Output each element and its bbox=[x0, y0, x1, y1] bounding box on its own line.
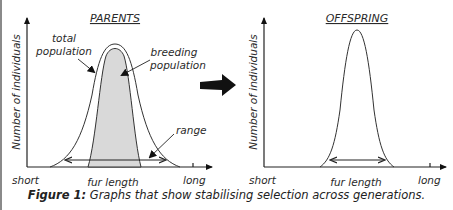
generation-arrow-icon bbox=[200, 74, 236, 96]
range-label: range bbox=[176, 124, 207, 136]
parents-ylabel: Number of individuals bbox=[10, 34, 22, 150]
stabilising-selection-diagram: PARENTS total population breeding popula… bbox=[0, 0, 453, 210]
breeding-label-2: population bbox=[149, 59, 206, 71]
breeding-population-curve bbox=[88, 49, 141, 168]
offspring-long-label: long bbox=[418, 174, 441, 186]
offspring-chart: OFFSPRING short fur length long Number o… bbox=[247, 12, 446, 188]
parents-title: PARENTS bbox=[90, 12, 140, 25]
parents-xlabel: fur length bbox=[87, 176, 138, 188]
offspring-short-label: short bbox=[249, 174, 277, 186]
offspring-title: OFFSPRING bbox=[326, 12, 389, 25]
total-label-2: population bbox=[35, 45, 92, 57]
breeding-label-1: breeding bbox=[151, 46, 198, 58]
offspring-xlabel: fur length bbox=[330, 176, 381, 188]
offspring-ylabel: Number of individuals bbox=[247, 34, 259, 150]
caption-label: Figure 1: bbox=[28, 188, 86, 202]
range-pointer bbox=[150, 134, 174, 157]
caption-text: Graphs that show stabilising selection a… bbox=[86, 188, 425, 202]
offspring-population-curve bbox=[320, 30, 394, 167]
parents-short-label: short bbox=[12, 174, 40, 186]
figure-caption: Figure 1: Graphs that show stabilising s… bbox=[0, 188, 453, 202]
parents-long-label: long bbox=[183, 174, 206, 186]
total-label-1: total bbox=[52, 32, 76, 44]
total-pointer bbox=[78, 59, 94, 72]
parents-chart: PARENTS total population breeding popula… bbox=[10, 12, 212, 188]
